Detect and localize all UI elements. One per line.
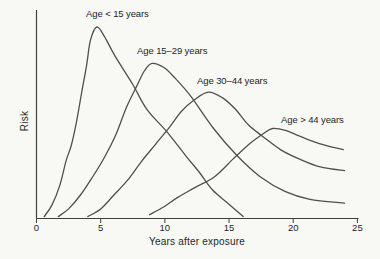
risk-curve-age-over-44 bbox=[150, 128, 344, 214]
risk-curve-age-15-29 bbox=[58, 63, 344, 216]
series-label-age-15-29: Age 15–29 years bbox=[137, 45, 207, 56]
y-axis-title: Risk bbox=[19, 91, 31, 151]
x-tick-label: 15 bbox=[219, 222, 239, 233]
x-axis-title: Years after exposure bbox=[36, 236, 358, 247]
chart-canvas bbox=[0, 0, 380, 259]
x-tick-label: 0 bbox=[27, 222, 47, 233]
x-tick-label: 10 bbox=[155, 222, 175, 233]
risk-after-exposure-chart: Risk Years after exposure Age < 15 years… bbox=[0, 0, 380, 259]
series-label-age-over-44: Age > 44 years bbox=[281, 114, 344, 125]
series-label-age-under-15: Age < 15 years bbox=[86, 8, 149, 19]
series-label-age-30-44: Age 30–44 years bbox=[197, 75, 267, 86]
x-tick-label: 5 bbox=[91, 222, 111, 233]
x-tick-label: 20 bbox=[283, 222, 303, 233]
x-tick-label: 25 bbox=[347, 222, 367, 233]
